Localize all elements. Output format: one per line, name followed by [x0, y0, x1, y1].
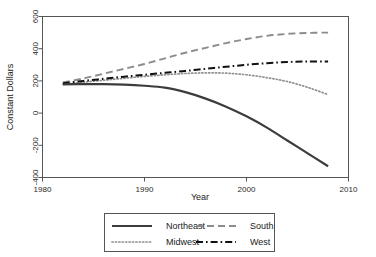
legend-label-south: South	[250, 221, 274, 231]
y-tick-label: -200	[31, 137, 40, 154]
x-axis-title: Year	[191, 192, 209, 202]
legend-label-midwest: Midwest	[166, 237, 200, 247]
legend-label-west: West	[250, 237, 271, 247]
y-tick-label: 0	[31, 110, 40, 115]
y-tick-label: 600	[31, 9, 40, 23]
x-tick-label: 1980	[34, 185, 52, 194]
x-tick-label: 2000	[238, 185, 256, 194]
y-tick-label: -400	[31, 169, 40, 186]
x-tick-label: 1990	[136, 185, 154, 194]
y-axis-title: Constant Dollars	[5, 63, 15, 130]
y-tick-label: 400	[31, 41, 40, 55]
line-chart: 6004002000-200-400 1980199020002010 Year…	[0, 0, 376, 257]
x-tick-label: 2010	[340, 185, 358, 194]
y-tick-label: 200	[31, 74, 40, 88]
